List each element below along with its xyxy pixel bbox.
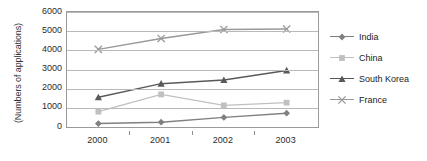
legend-item-france[interactable]: France [330, 89, 425, 110]
plot-area [66, 11, 319, 128]
legend-marker-square-icon [330, 52, 354, 64]
series-india [95, 110, 290, 127]
line-chart: (Numbers of applications) 01000200030004… [0, 0, 427, 161]
legend-marker-cross-x-icon [330, 94, 354, 106]
legend-item-china[interactable]: China [330, 47, 425, 68]
gridline-2000 [67, 89, 318, 90]
legend-label: South Korea [359, 74, 409, 84]
gridline-5000 [67, 31, 318, 32]
legend-label: China [359, 53, 383, 63]
y-axis-tick-labels: 0100020003000400050006000 [24, 0, 62, 140]
x-tick-mark [192, 131, 193, 135]
legend-swatch-square-icon [330, 52, 354, 64]
gridline-1000 [67, 108, 318, 109]
x-tick-label-2000: 2000 [77, 135, 117, 145]
legend-swatch-diamond-icon [330, 31, 354, 43]
gridline-4000 [67, 50, 318, 51]
data-point-marker-square [95, 109, 101, 115]
legend-item-south-korea[interactable]: South Korea [330, 68, 425, 89]
y-tick-label: 5000 [28, 26, 62, 35]
x-tick-label-2001: 2001 [140, 135, 180, 145]
x-tick-mark [254, 131, 255, 135]
x-tick-label-2003: 2003 [266, 135, 306, 145]
legend-marker-triangle-icon [330, 73, 354, 85]
y-tick-label: 1000 [28, 102, 62, 111]
data-point-marker-diamond [220, 114, 227, 121]
y-tick-label: 6000 [28, 7, 62, 16]
legend-item-india[interactable]: India [330, 26, 425, 47]
legend-swatch-triangle-icon [330, 73, 354, 85]
series-china [95, 92, 289, 115]
series-france [95, 25, 290, 53]
data-point-marker-diamond [339, 33, 346, 40]
y-tick-label: 2000 [28, 83, 62, 92]
legend-marker-diamond-icon [330, 31, 354, 43]
legend-label: France [359, 95, 387, 105]
data-point-marker-cross-x [338, 96, 345, 103]
y-axis-title: (Numbers of applications) [13, 8, 23, 138]
chart-legend: IndiaChinaSouth KoreaFrance [330, 26, 425, 110]
data-point-marker-square [158, 92, 164, 98]
x-tick-mark [129, 131, 130, 135]
x-tick-label-2002: 2002 [203, 135, 243, 145]
legend-label: India [359, 32, 379, 42]
x-axis-tick-labels: 2000200120022003 [66, 131, 317, 151]
data-point-marker-triangle [338, 75, 345, 82]
data-point-marker-diamond [158, 119, 165, 126]
data-point-marker-square [284, 100, 290, 106]
data-point-marker-diamond [95, 120, 102, 127]
y-tick-label: 3000 [28, 64, 62, 73]
data-point-marker-square [339, 55, 345, 61]
y-tick-label: 0 [28, 122, 62, 131]
gridline-6000 [67, 12, 318, 13]
series-south-korea [95, 67, 290, 100]
data-point-marker-diamond [283, 110, 290, 117]
gridline-3000 [67, 70, 318, 71]
legend-swatch-cross-x-icon [330, 94, 354, 106]
y-tick-label: 4000 [28, 45, 62, 54]
